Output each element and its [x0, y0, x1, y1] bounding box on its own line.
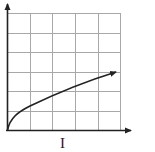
data-curve	[8, 72, 117, 130]
chart: I	[0, 0, 155, 152]
x-axis-label: I	[60, 135, 65, 151]
grid	[7, 13, 121, 130]
